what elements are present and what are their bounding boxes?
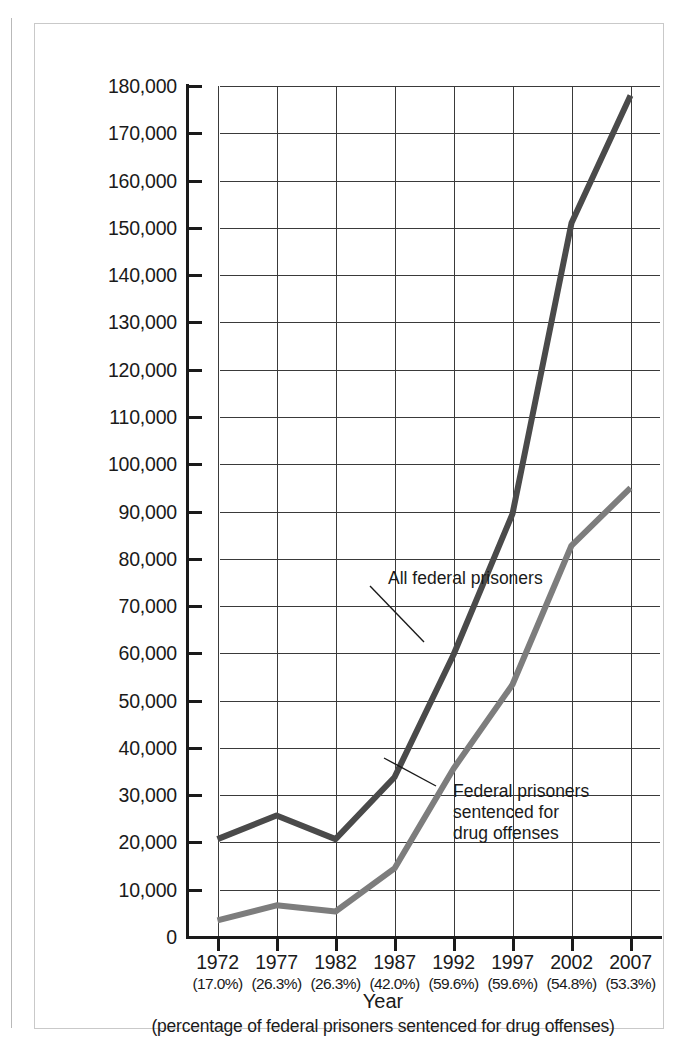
y-axis-tick — [186, 841, 202, 844]
series-lines — [188, 86, 660, 937]
x-axis-tick — [630, 937, 633, 951]
x-axis-title: Year (percentage of federal prisoners se… — [69, 990, 685, 1037]
y-axis-tick — [186, 85, 202, 88]
x-axis-tick — [276, 937, 279, 951]
y-axis-tick-label: 120,000 — [108, 358, 177, 381]
x-axis-year: 1977 — [251, 951, 301, 974]
x-axis-year: 1987 — [369, 951, 419, 974]
y-axis-tick-label: 150,000 — [108, 216, 177, 239]
y-axis-tick — [186, 794, 202, 797]
x-axis-year: 1997 — [487, 951, 537, 974]
y-axis-tick-label: 0 — [166, 926, 177, 949]
y-axis-tick-label: 180,000 — [108, 75, 177, 98]
annotation-leader-line — [370, 586, 424, 642]
x-axis-tick — [453, 937, 456, 951]
y-axis-tick — [186, 369, 202, 372]
x-axis-tick-label: 1987(42.0%) — [369, 951, 419, 993]
y-axis-tick — [186, 132, 202, 135]
x-axis-tick-label: 1997(59.6%) — [487, 951, 537, 993]
y-axis-tick — [186, 463, 202, 466]
figure-frame: All federal prisoners Federal prisoners … — [34, 23, 664, 1029]
x-axis-year: 2007 — [605, 951, 655, 974]
plot-area: All federal prisoners Federal prisoners … — [188, 86, 660, 937]
x-axis-title-main: Year — [69, 990, 685, 1013]
y-axis-tick — [186, 511, 202, 514]
y-axis-tick — [186, 652, 202, 655]
x-axis-tick-label: 1982(26.3%) — [310, 951, 360, 993]
y-axis-tick — [186, 180, 202, 183]
annotation-all-federal-prisoners: All federal prisoners — [388, 568, 543, 589]
y-axis-tick — [186, 227, 202, 230]
y-axis-tick-label: 70,000 — [119, 595, 177, 618]
x-axis-year: 1992 — [428, 951, 478, 974]
x-axis-tick-label: 1992(59.6%) — [428, 951, 478, 993]
annotation-drug-offenses: Federal prisoners sentenced for drug off… — [453, 781, 589, 845]
x-axis-tick-label: 1977(26.3%) — [251, 951, 301, 993]
page-left-rule — [11, 18, 12, 1028]
series-line — [218, 95, 631, 839]
y-axis-tick — [186, 321, 202, 324]
y-axis-tick-label: 110,000 — [109, 405, 177, 428]
y-axis-tick-label: 50,000 — [119, 689, 177, 712]
y-axis-tick-label: 170,000 — [108, 122, 177, 145]
y-axis-tick — [186, 274, 202, 277]
y-axis-tick-label: 30,000 — [119, 784, 177, 807]
y-axis-tick — [186, 558, 202, 561]
y-axis-tick-label: 10,000 — [119, 878, 177, 901]
y-axis-tick-label: 40,000 — [119, 736, 177, 759]
y-axis-tick — [186, 700, 202, 703]
y-axis-tick-label: 60,000 — [119, 642, 177, 665]
x-axis-tick-label: 2007(53.3%) — [605, 951, 655, 993]
x-axis-title-sub: (percentage of federal prisoners sentenc… — [69, 1016, 685, 1037]
x-axis-tick — [512, 937, 515, 951]
y-axis-tick — [186, 936, 202, 939]
y-axis-tick-label: 90,000 — [119, 500, 177, 523]
x-axis-tick-label: 1972(17.0%) — [192, 951, 242, 993]
y-axis-tick-label: 140,000 — [108, 264, 177, 287]
x-axis-tick — [217, 937, 220, 951]
y-axis-tick — [186, 416, 202, 419]
y-axis-tick-label: 130,000 — [108, 311, 177, 334]
y-axis-tick-label: 20,000 — [119, 831, 177, 854]
y-axis-tick-label: 160,000 — [108, 169, 177, 192]
y-axis-tick-label: 100,000 — [108, 453, 177, 476]
x-axis-year: 1972 — [192, 951, 242, 974]
x-axis-tick — [571, 937, 574, 951]
x-axis-year: 2002 — [546, 951, 596, 974]
x-axis-year: 1982 — [310, 951, 360, 974]
x-axis-tick — [394, 937, 397, 951]
x-axis-tick — [335, 937, 338, 951]
y-axis-tick — [186, 889, 202, 892]
series-line — [218, 488, 631, 921]
x-axis-tick-label: 2002(54.8%) — [546, 951, 596, 993]
y-axis-tick — [186, 605, 202, 608]
y-axis-tick-label: 80,000 — [119, 547, 177, 570]
y-axis-tick — [186, 747, 202, 750]
